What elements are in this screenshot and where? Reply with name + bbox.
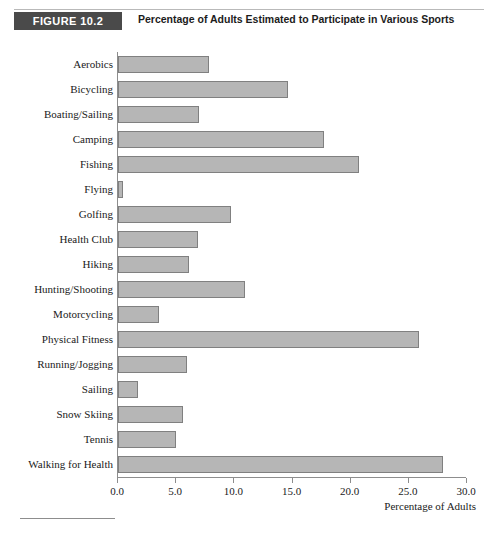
category-label: Snow Skiing [56,408,113,420]
bar [118,206,231,223]
x-axis-title: Percentage of Adults [326,500,476,512]
category-label: Hiking [82,258,113,270]
bar [118,356,187,373]
bar [118,106,199,123]
bar [118,406,183,423]
category-label: Physical Fitness [42,333,113,345]
x-axis-tick-label: 0.0 [97,485,137,497]
category-label: Aerobics [73,58,113,70]
category-label: Walking for Health [28,458,113,470]
category-label: Running/Jogging [37,358,113,370]
bar [118,231,198,248]
category-label: Flying [84,183,113,195]
bar [118,256,189,273]
x-axis-tick [117,478,118,483]
x-axis-tick-label: 5.0 [155,485,195,497]
category-label: Fishing [80,158,113,170]
category-label: Hunting/Shooting [34,283,113,295]
x-axis-tick [175,478,176,483]
category-label: Camping [73,133,113,145]
bar [118,331,419,348]
x-axis-tick-label: 20.0 [330,485,370,497]
bar [118,181,123,198]
bar [118,306,159,323]
bar [118,56,209,73]
bar [118,381,138,398]
bar-chart-plot: Percentage of Adults 0.05.010.015.020.02… [0,0,498,536]
x-axis-tick-label: 30.0 [446,485,486,497]
bar [118,81,288,98]
x-axis-tick-label: 15.0 [272,485,312,497]
x-axis-tick [292,478,293,483]
category-label: Boating/Sailing [44,108,113,120]
bar [118,431,176,448]
category-label: Golfing [79,208,113,220]
x-axis-tick-label: 10.0 [213,485,253,497]
footer-rule [20,518,115,519]
figure-container: FIGURE 10.2 Percentage of Adults Estimat… [0,0,498,536]
category-label: Health Club [60,233,113,245]
bar [118,281,245,298]
category-label: Sailing [82,383,113,395]
category-label: Motorcycling [53,308,113,320]
category-label: Tennis [84,433,113,445]
bar [118,156,359,173]
x-axis-tick [408,478,409,483]
x-axis-tick [233,478,234,483]
x-axis-tick-label: 25.0 [388,485,428,497]
x-axis-tick [350,478,351,483]
bar [118,131,324,148]
category-label: Bicycling [70,83,113,95]
x-axis-tick [466,478,467,483]
bar [118,456,443,473]
